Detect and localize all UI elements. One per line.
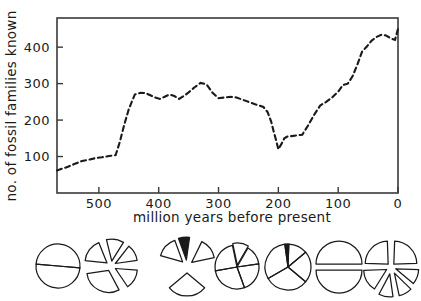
x-tick-label: 0: [394, 196, 403, 211]
y-tick-label: 400: [24, 40, 50, 55]
fossil-diversity-figure: 100200300400 5004003002001000 no. of fos…: [0, 0, 421, 301]
x-tick-label: 500: [86, 196, 112, 211]
x-axis-title: million years before present: [133, 209, 331, 225]
y-tick-label: 200: [24, 113, 50, 128]
figure-background: [0, 0, 421, 301]
y-axis-title: no. of fossil families known: [3, 10, 19, 201]
y-tick-label: 300: [24, 76, 50, 91]
y-tick-label: 100: [24, 149, 50, 164]
